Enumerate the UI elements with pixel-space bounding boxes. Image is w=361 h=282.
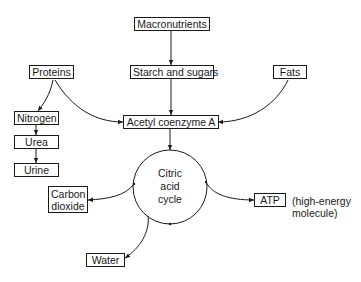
node-nitrogen: Nitrogen xyxy=(14,111,59,125)
arrow-fats-to-acetyl xyxy=(218,80,288,122)
node-atp: ATP xyxy=(254,193,286,207)
annotation-line2: molecule) xyxy=(292,207,351,219)
node-urea: Urea xyxy=(14,135,59,149)
node-fats: Fats xyxy=(273,65,307,79)
node-label: Proteins xyxy=(32,66,71,78)
node-label: Urea xyxy=(25,136,48,148)
node-label: Fats xyxy=(280,66,300,78)
node-starch-and-sugars: Starch and sugars xyxy=(130,65,214,79)
cycle-label-line2: acid xyxy=(145,180,195,193)
atp-annotation: (high-energy molecule) xyxy=(292,195,351,219)
node-proteins: Proteins xyxy=(29,65,74,79)
node-label: Macronutrients xyxy=(137,18,206,30)
node-label: Starch and sugars xyxy=(133,66,218,78)
arrow-cycle-to-atp xyxy=(206,182,254,200)
node-label: Nitrogen xyxy=(17,112,57,124)
arrow-proteins-to-nitrogen xyxy=(38,80,53,111)
node-label-line2: dioxide xyxy=(51,200,85,212)
node-macronutrients: Macronutrients xyxy=(134,17,210,31)
arrow-cycle-to-water xyxy=(125,216,148,258)
annotation-line1: (high-energy xyxy=(292,195,351,207)
arrow-cycle-to-co2 xyxy=(88,184,134,200)
node-label: Water xyxy=(92,254,120,266)
node-label: ATP xyxy=(260,194,280,206)
node-water: Water xyxy=(86,253,125,267)
node-label-line1: Carbon xyxy=(51,188,85,200)
node-urine: Urine xyxy=(14,163,59,177)
node-acetyl-coenzyme-a: Acetyl coenzyme A xyxy=(123,115,219,129)
arrow-proteins-to-acetyl xyxy=(55,80,123,122)
node-label: Acetyl coenzyme A xyxy=(127,116,216,128)
node-carbon-dioxide: Carbon dioxide xyxy=(48,186,88,213)
node-label: Urine xyxy=(24,164,49,176)
cycle-label-line3: cycle xyxy=(145,193,195,206)
cycle-label-line1: Citric xyxy=(145,167,195,180)
node-citric-acid-cycle: Citric acid cycle xyxy=(145,167,195,206)
